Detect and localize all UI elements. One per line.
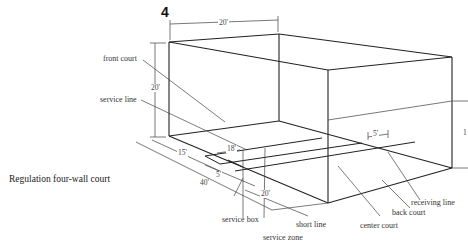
back-wall-line <box>328 101 452 120</box>
figure-number: 4 <box>161 5 169 19</box>
center-court-leader <box>338 166 380 216</box>
service-line <box>205 138 322 156</box>
label-service-zone: service zone <box>263 234 303 242</box>
dim-back-wall-height: 1 <box>462 129 468 137</box>
dim-front-court-depth: 15' <box>177 149 188 157</box>
left-floor-edge <box>169 136 328 203</box>
right-wall-top-edge <box>279 34 452 57</box>
front-floor-edge <box>169 121 279 136</box>
dim-service-zone-depth: 5' <box>215 171 222 179</box>
receiving-line-leader <box>388 152 420 200</box>
front-wall-top-edge <box>169 34 279 42</box>
short-line-leader <box>264 148 265 218</box>
right-floor-edge-hidden <box>279 121 452 168</box>
label-service-box: service box <box>222 216 259 224</box>
label-service-line: service line <box>100 96 137 104</box>
court-diagram: 4 Regulation four-wall court front court… <box>0 0 468 248</box>
floor-line-back <box>235 142 415 171</box>
label-receiving-line: receiving line <box>411 199 455 207</box>
dim-total-length: 40' <box>199 179 210 187</box>
left-wall-top-edge <box>169 42 328 70</box>
label-front-court: front court <box>103 55 137 63</box>
label-center-court: center court <box>360 222 398 230</box>
dim-service-box-width: 18' <box>226 145 237 153</box>
dim-height-front: 20' <box>150 84 161 92</box>
dim-back-half: 20' <box>260 190 271 198</box>
back-top-edge <box>328 57 452 70</box>
label-back-court: back court <box>392 209 426 217</box>
dim-receiving-offset: 5' <box>372 130 379 138</box>
dim-width-top: 20' <box>218 19 229 27</box>
label-short-line: short line <box>296 221 326 229</box>
figure-caption: Regulation four-wall court <box>9 175 110 185</box>
